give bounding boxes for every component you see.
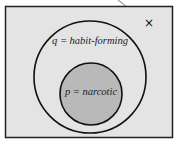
venn-diagram: q = habit-forming p = narcotic × bbox=[0, 0, 177, 144]
x-marker-icon: × bbox=[144, 16, 154, 30]
outer-set-label: q = habit-forming bbox=[52, 35, 128, 46]
inner-set-label: p = narcotic bbox=[64, 86, 118, 97]
